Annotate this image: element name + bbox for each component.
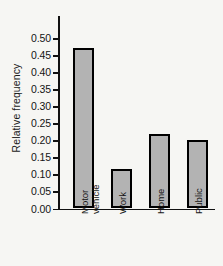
- y-axis-line: [58, 16, 60, 210]
- y-tick-label: 0.50: [31, 32, 51, 44]
- y-tick-mark: [53, 174, 58, 176]
- x-axis-label: Public: [194, 162, 205, 214]
- y-tick-label: 0.20: [31, 134, 51, 146]
- y-axis-title: Relative frequency: [10, 8, 26, 208]
- y-tick-mark: [53, 38, 58, 40]
- y-tick-mark: [53, 209, 58, 211]
- y-tick-mark: [53, 55, 58, 57]
- y-tick-mark: [53, 123, 58, 125]
- x-axis-label: Work: [118, 162, 129, 214]
- y-tick-label: 0.40: [31, 66, 51, 78]
- x-axis-label: Home: [156, 162, 167, 214]
- y-tick-label: 0.00: [31, 203, 51, 215]
- y-tick-mark: [53, 89, 58, 91]
- y-tick-label: 0.05: [31, 185, 51, 197]
- y-tick-mark: [53, 72, 58, 74]
- y-tick-label: 0.35: [31, 83, 51, 95]
- y-tick-mark: [53, 191, 58, 193]
- y-tick-mark: [53, 106, 58, 108]
- y-tick-label: 0.30: [31, 100, 51, 112]
- y-tick-label: 0.25: [31, 117, 51, 129]
- y-tick-label: 0.45: [31, 49, 51, 61]
- y-tick-label: 0.15: [31, 151, 51, 163]
- y-tick-mark: [53, 140, 58, 142]
- bar-chart: Relative frequency 0.000.050.100.150.200…: [0, 0, 223, 266]
- y-tick-mark: [53, 157, 58, 159]
- y-tick-label: 0.10: [31, 168, 51, 180]
- x-axis-label: Motor vehicle: [80, 162, 101, 214]
